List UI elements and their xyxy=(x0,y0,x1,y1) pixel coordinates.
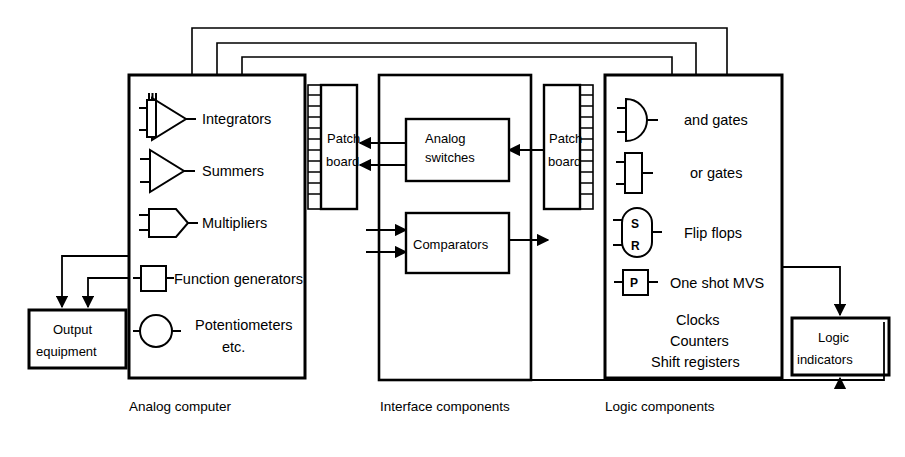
patch-board-left-line1: Patch xyxy=(327,131,360,146)
flip-flop-pin-r: R xyxy=(631,239,640,253)
diagram-canvas: Integrators Summers Multipliers Function… xyxy=(0,0,905,457)
patch-board-left[interactable]: Patch board xyxy=(308,85,360,209)
logic-item-label-5: Counters xyxy=(670,333,729,349)
comparators-label: Comparators xyxy=(413,237,489,252)
logic-item-label-0: and gates xyxy=(684,112,748,128)
caption-interface-components: Interface components xyxy=(380,399,510,414)
block-diagram: Integrators Summers Multipliers Function… xyxy=(0,0,905,457)
one-shot-pin-p: P xyxy=(630,276,638,290)
logic-components-block[interactable]: and gates or gates S R Flip flops P One … xyxy=(605,75,782,378)
patch-ladder-right xyxy=(580,85,593,209)
analog-item-label-2: Multipliers xyxy=(202,215,267,231)
patch-board-right-line1: Patch xyxy=(549,131,582,146)
analog-switches-line1: Analog xyxy=(425,131,465,146)
patch-board-right-line2: board xyxy=(548,154,581,169)
logic-item-label-1: or gates xyxy=(690,165,742,181)
analog-switches-line2: switches xyxy=(425,150,475,165)
analog-computer-block[interactable]: Integrators Summers Multipliers Function… xyxy=(129,75,305,378)
captions: Analog computer Interface components Log… xyxy=(129,399,715,414)
logic-indicators-block[interactable]: Logic indicators xyxy=(792,318,889,375)
patch-ladder-left xyxy=(308,85,321,209)
logic-item-label-3: One shot MVS xyxy=(670,275,764,291)
comparators-box[interactable]: Comparators xyxy=(406,213,509,273)
flip-flop-pin-s: S xyxy=(631,217,639,231)
interface-components-block[interactable]: Analog Comparators xyxy=(360,75,556,380)
analog-item-label-4: Potentiometers xyxy=(195,317,293,333)
logic-item-label-2: Flip flops xyxy=(684,225,742,241)
analog-item-label-1: Summers xyxy=(202,163,264,179)
output-equipment-line2: equipment xyxy=(36,344,97,359)
caption-logic-components: Logic components xyxy=(605,399,715,414)
patch-board-right[interactable]: Patch board xyxy=(544,85,593,209)
analog-item-label-5: etc. xyxy=(222,339,245,355)
output-equipment-line1: Output xyxy=(53,322,92,337)
output-equipment-links xyxy=(62,256,129,307)
top-feedback-buses xyxy=(192,28,727,75)
logic-item-label-6: Shift registers xyxy=(651,354,740,370)
logic-item-label-4: Clocks xyxy=(676,312,720,328)
analog-item-label-0: Integrators xyxy=(202,111,271,127)
logic-indicators-line2: indicators xyxy=(797,352,853,367)
output-equipment-block[interactable]: Output equipment xyxy=(29,310,126,368)
caption-analog-computer: Analog computer xyxy=(129,399,232,414)
logic-indicators-line1: Logic xyxy=(818,330,850,345)
analog-item-label-3: Function generators xyxy=(174,271,303,287)
patch-board-left-line2: board xyxy=(326,154,359,169)
